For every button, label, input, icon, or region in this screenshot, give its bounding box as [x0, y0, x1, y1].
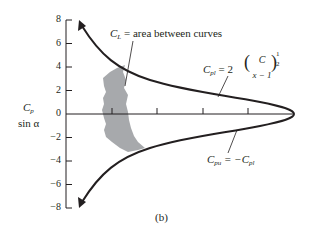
x-axis-ticks: [112, 108, 248, 114]
lower-curve-leader-line: [228, 130, 237, 153]
upper-frac-den: x − 1: [250, 71, 274, 80]
y-tick-label: −8: [45, 202, 61, 212]
shaded-lift-area: [102, 65, 145, 152]
y-tick-label: −2: [45, 132, 61, 142]
upper-curve-annotation: Cpl = 2: [203, 64, 233, 77]
y-tick-label: 6: [45, 38, 61, 48]
upper-exp-den: 2: [276, 61, 280, 68]
lower-label-eq: = −C: [221, 153, 249, 165]
y-tick-label: 4: [45, 61, 61, 71]
upper-paren-left: (: [244, 53, 250, 71]
y-tick-label: 2: [45, 85, 61, 95]
upper-frac-num: C: [252, 55, 272, 65]
upper-label-eq: = 2: [216, 63, 233, 75]
lower-label-eq-sub: pl: [249, 159, 254, 167]
y-axis-label-cp: Cp: [23, 102, 34, 115]
area-label-text: = area between curves: [121, 27, 222, 39]
area-leader-line: [125, 41, 133, 86]
y-tick-label: −4: [45, 155, 61, 165]
lower-curve-annotation: Cpu = −Cpl: [207, 154, 254, 167]
upper-curve-leader-line: [218, 76, 228, 97]
upper-exp-num: 1: [276, 51, 280, 58]
area-annotation: CL = area between curves: [110, 28, 222, 41]
y-tick-label: 0: [45, 108, 61, 118]
caption-text: (b): [155, 211, 168, 223]
y-axis-label-sin: sin α: [18, 118, 39, 129]
figure-caption: (b): [155, 212, 168, 223]
y-tick-label: 8: [45, 14, 61, 24]
y-tick-label: −6: [45, 179, 61, 189]
y-label-sub: p: [30, 107, 34, 115]
